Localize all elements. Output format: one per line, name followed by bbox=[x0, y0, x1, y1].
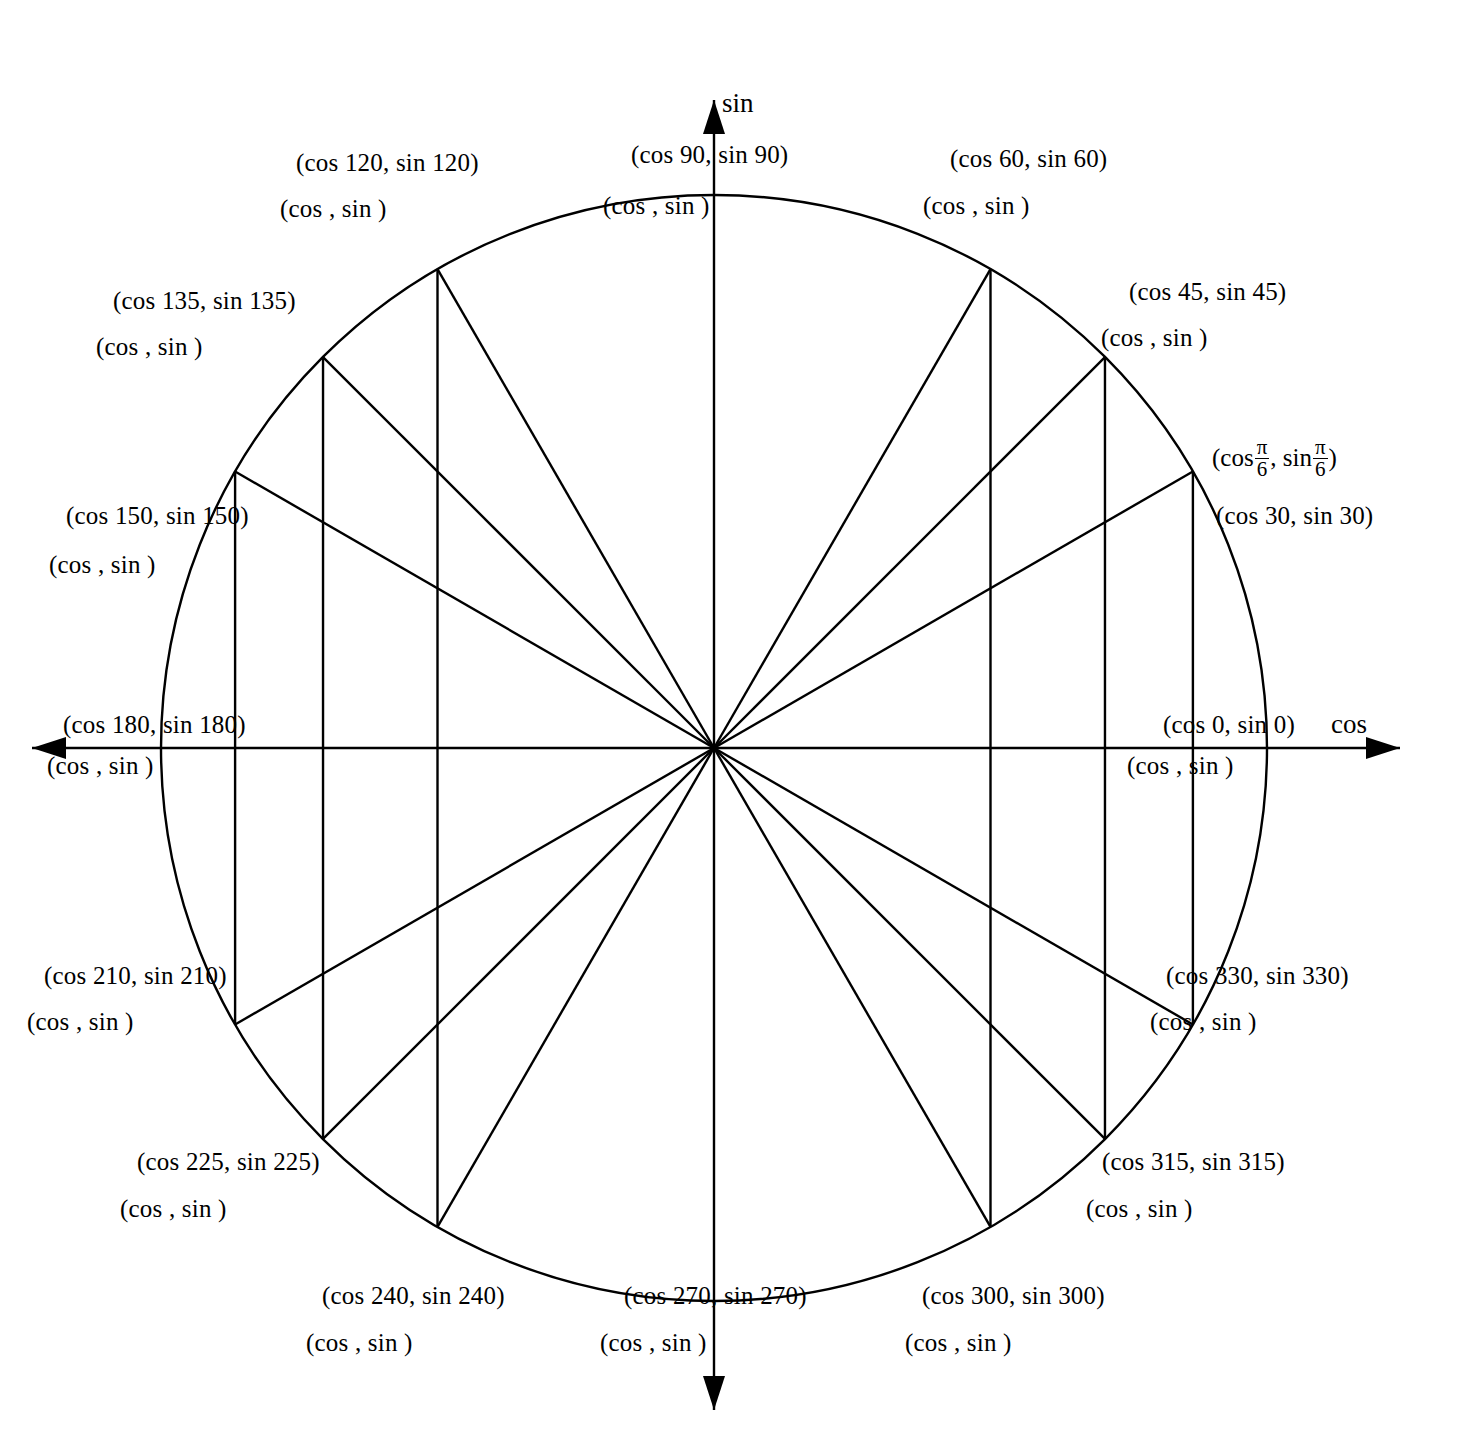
unit-circle-figure: sin cos (cosπ6, sinπ6) (cos 0, sin 0)(co… bbox=[0, 0, 1473, 1443]
fraction-numerator: π bbox=[1255, 437, 1270, 459]
degree-label-60: (cos 60, sin 60) bbox=[950, 146, 1107, 171]
blank-label-210[interactable]: (cos , sin ) bbox=[27, 1009, 134, 1034]
degree-label-45: (cos 45, sin 45) bbox=[1129, 279, 1286, 304]
blank-label-180[interactable]: (cos , sin ) bbox=[47, 753, 154, 778]
fraction-denominator: 6 bbox=[1255, 459, 1270, 480]
degree-label-135: (cos 135, sin 135) bbox=[113, 288, 296, 313]
axis-arrowhead bbox=[1366, 737, 1400, 759]
blank-label-225[interactable]: (cos , sin ) bbox=[120, 1196, 227, 1221]
blank-label-90[interactable]: (cos , sin ) bbox=[603, 193, 710, 218]
degree-label-180: (cos 180, sin 180) bbox=[63, 712, 246, 737]
sample-middle: , sin bbox=[1270, 444, 1312, 471]
radius-line-120 bbox=[438, 269, 715, 748]
radius-line-330 bbox=[714, 748, 1193, 1025]
degree-label-315: (cos 315, sin 315) bbox=[1102, 1149, 1285, 1174]
degree-label-270: (cos 270, sin 270) bbox=[624, 1283, 807, 1308]
sample-suffix: ) bbox=[1329, 444, 1337, 471]
cos-axis-label: cos bbox=[1331, 709, 1367, 740]
degree-label-210: (cos 210, sin 210) bbox=[44, 963, 227, 988]
axis-arrowhead bbox=[703, 1376, 725, 1410]
blank-label-330[interactable]: (cos , sin ) bbox=[1150, 1009, 1257, 1034]
blank-label-240[interactable]: (cos , sin ) bbox=[306, 1330, 413, 1355]
blank-label-315[interactable]: (cos , sin ) bbox=[1086, 1196, 1193, 1221]
degree-label-150: (cos 150, sin 150) bbox=[66, 503, 249, 528]
blank-label-60[interactable]: (cos , sin ) bbox=[923, 193, 1030, 218]
radius-line-135 bbox=[323, 357, 714, 748]
sin-axis-label: sin bbox=[722, 88, 754, 119]
radius-line-300 bbox=[714, 748, 991, 1227]
degree-label-120: (cos 120, sin 120) bbox=[296, 150, 479, 175]
radius-line-150 bbox=[235, 472, 714, 749]
radius-line-30 bbox=[714, 472, 1193, 749]
pi-over-six-fraction-2: π6 bbox=[1313, 437, 1328, 481]
radius-line-210 bbox=[235, 748, 714, 1025]
radius-line-225 bbox=[323, 748, 714, 1139]
degree-label-225: (cos 225, sin 225) bbox=[137, 1149, 320, 1174]
blank-label-45[interactable]: (cos , sin ) bbox=[1101, 325, 1208, 350]
degree-label-240: (cos 240, sin 240) bbox=[322, 1283, 505, 1308]
blank-label-300[interactable]: (cos , sin ) bbox=[905, 1330, 1012, 1355]
degree-label-300: (cos 300, sin 300) bbox=[922, 1283, 1105, 1308]
pi-over-six-fraction-1: π6 bbox=[1255, 437, 1270, 481]
blank-label-120[interactable]: (cos , sin ) bbox=[280, 196, 387, 221]
degree-label-0: (cos 0, sin 0) bbox=[1163, 712, 1295, 737]
blank-label-150[interactable]: (cos , sin ) bbox=[49, 552, 156, 577]
blank-label-270[interactable]: (cos , sin ) bbox=[600, 1330, 707, 1355]
sample-radian-label: (cosπ6, sinπ6) bbox=[1212, 438, 1337, 482]
sample-prefix: (cos bbox=[1212, 444, 1254, 471]
radius-line-45 bbox=[714, 357, 1105, 748]
degree-label-90: (cos 90, sin 90) bbox=[631, 142, 788, 167]
degree-label-30: (cos 30, sin 30) bbox=[1216, 503, 1373, 528]
fraction-numerator: π bbox=[1313, 437, 1328, 459]
degree-label-330: (cos 330, sin 330) bbox=[1166, 963, 1349, 988]
radius-line-315 bbox=[714, 748, 1105, 1139]
fraction-denominator: 6 bbox=[1313, 459, 1328, 480]
radius-line-240 bbox=[438, 748, 715, 1227]
radius-line-60 bbox=[714, 269, 991, 748]
blank-label-0[interactable]: (cos , sin ) bbox=[1127, 753, 1234, 778]
blank-label-135[interactable]: (cos , sin ) bbox=[96, 334, 203, 359]
